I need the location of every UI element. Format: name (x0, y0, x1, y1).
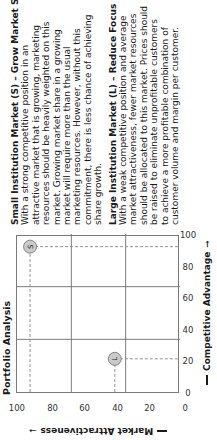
y-tick-label: 80 (38, 403, 58, 413)
x-tick-label: 40 (176, 325, 200, 335)
body-line: With a weak competitive position and ave… (118, 0, 128, 225)
body-line: market. Growing market share in a growin… (52, 0, 62, 225)
body-line: share growth. (93, 0, 103, 225)
section-title: Large Institution Market (L) – Reduce Fo… (108, 0, 118, 225)
y-tick-label: 60 (70, 403, 90, 413)
y-axis-label-text: Market Attractiveness (40, 426, 153, 436)
x-tick-label: 20 (176, 356, 200, 366)
body-line: attractive market that is growing, marke… (31, 0, 41, 225)
section-title: Small Institution Market (S) – Grow Mark… (10, 0, 20, 225)
axis-line-decoration (157, 430, 167, 431)
x-tick-label: 60 (176, 293, 200, 303)
arrow-right-icon: ➞ (29, 427, 37, 436)
body-line: marketing resources. However, without th… (72, 0, 82, 225)
scatter-plot: SL (17, 234, 180, 392)
y-tick-label: 40 (103, 403, 123, 413)
plot-area: SL (16, 235, 179, 393)
body-line: be raised to eliminate unprofitable cust… (149, 0, 159, 225)
body-line: resources should be heavily weighted on … (41, 0, 51, 225)
body-line: market attractiveness, fewer market reso… (128, 0, 138, 225)
y-tick-label: 0 (168, 403, 188, 413)
y-tick-label: 20 (135, 403, 155, 413)
x-tick-label: 100 (176, 230, 200, 240)
body-line: should be allocated to this market. Pric… (139, 0, 149, 225)
description-column: Small Institution Market (S) – Grow Mark… (10, 0, 185, 225)
body-line: With a strong competitive position in an (20, 0, 30, 225)
y-tick-label: 100 (5, 403, 25, 413)
bubble-label: S (27, 244, 35, 249)
body-line: customer volume and margin per customer. (170, 0, 180, 225)
arrow-right-icon: ➞ (203, 240, 212, 248)
body-line: commitment, there is less chance of achi… (83, 0, 93, 225)
chart-title: Portfolio Analysis (1, 301, 12, 395)
portfolio-analysis-page: Portfolio Analysis Market Attractiveness… (0, 0, 217, 440)
y-axis-label: Market Attractiveness ➞ (13, 425, 183, 437)
body-line: to achieve a more profitable combination… (160, 0, 170, 225)
bubble-label: L (111, 357, 119, 361)
axis-line-decoration (206, 375, 207, 385)
x-axis-label-text: Competitive Advantage (202, 252, 212, 371)
x-axis-label: Competitive Advantage ➞ (201, 230, 213, 395)
x-tick-label: 80 (176, 262, 200, 272)
section-large-institution: Large Institution Market (L) – Reduce Fo… (108, 0, 181, 225)
body-line: market will require more than the usual (62, 0, 72, 225)
x-tick-label: 0 (176, 388, 200, 398)
section-small-institution: Small Institution Market (S) – Grow Mark… (10, 0, 104, 225)
